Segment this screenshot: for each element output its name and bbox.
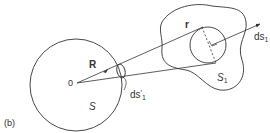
panel-label: (b) [4, 118, 15, 128]
leader-curve [123, 77, 126, 90]
diagram-canvas: R r 0 S S1 ds1 ds′1 (b) [0, 0, 270, 133]
sphere-s [30, 39, 122, 131]
label-S1-sub: 1 [224, 77, 228, 84]
sphere-s1 [190, 27, 226, 63]
label-S1: S1 [217, 72, 228, 84]
label-ds1: ds1 [254, 31, 269, 43]
label-origin: 0 [68, 78, 73, 88]
ds1-vector [212, 24, 260, 45]
label-ds1p-base: ds [130, 89, 141, 100]
label-S: S [89, 101, 96, 112]
label-R: R [89, 59, 97, 70]
label-ds1-prime: ds′1 [130, 88, 146, 101]
ray-upper [77, 27, 203, 83]
ray-lower [77, 63, 216, 83]
irregular-surface [160, 5, 246, 91]
label-r: r [185, 19, 189, 30]
label-ds1-sub: 1 [265, 36, 269, 43]
label-ds1p-sub: 1 [142, 94, 146, 101]
label-ds1-base: ds [254, 31, 265, 42]
